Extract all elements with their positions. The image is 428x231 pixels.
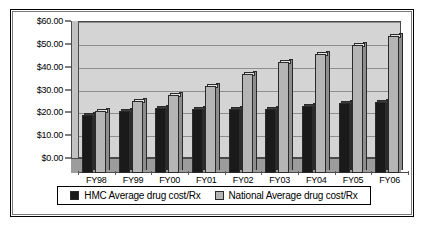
bar-front-face — [119, 111, 130, 173]
bar-front-face — [205, 86, 216, 173]
legend-item-national: National Average drug cost/Rx — [215, 190, 358, 201]
bar-national-fy05 — [352, 45, 363, 173]
legend-item-hmc: HMC Average drug cost/Rx — [70, 190, 200, 201]
gray-square-icon — [215, 191, 224, 200]
bar-national-fy02 — [242, 74, 253, 173]
bar-national-fy06 — [388, 36, 399, 173]
x-axis-tick-label: FY03 — [263, 175, 297, 185]
bar-front-face — [352, 45, 363, 173]
legend-label: National Average drug cost/Rx — [229, 190, 358, 201]
plot-area: $60.00$50.00$40.00$30.00$20.00$10.00$0.0… — [14, 13, 410, 173]
bar-hmc-fy99 — [119, 111, 130, 173]
bar-hmc-fy00 — [155, 108, 166, 173]
bar-group — [115, 21, 152, 173]
bar-group — [335, 21, 372, 173]
bar-national-fy01 — [205, 86, 216, 173]
y-axis-tick-label: $50.00 — [37, 39, 63, 49]
bar-front-face — [302, 106, 313, 173]
x-axis-tick-label: FY05 — [336, 175, 370, 185]
bar-side-face — [179, 92, 183, 170]
bar-group — [225, 21, 262, 173]
bar-front-face — [388, 36, 399, 173]
bar-front-face — [278, 62, 289, 173]
x-axis-tick-label: FY06 — [373, 175, 407, 185]
bar-series-container — [78, 21, 408, 173]
x-axis-tick-mark — [115, 171, 116, 175]
x-axis-tick-mark — [188, 171, 189, 175]
bar-side-face — [253, 71, 257, 170]
bar-hmc-fy03 — [265, 109, 276, 173]
bar-side-face — [216, 83, 220, 170]
bar-front-face — [339, 103, 350, 173]
bar-group — [151, 21, 188, 173]
bar-group — [261, 21, 298, 173]
y-axis-tick-label: $0.00 — [41, 153, 63, 163]
bar-front-face — [82, 115, 93, 173]
y-axis-tick-label: $10.00 — [37, 130, 63, 140]
bar-front-face — [265, 109, 276, 173]
x-axis-tick-label: FY02 — [226, 175, 260, 185]
bar-group — [78, 21, 115, 173]
x-axis-tick-mark — [78, 171, 79, 175]
bar-national-fy98 — [95, 111, 106, 173]
bar-front-face — [192, 109, 203, 173]
y-axis-tick-label: $40.00 — [37, 62, 63, 72]
bar-national-fy04 — [315, 54, 326, 173]
bar-hmc-fy01 — [192, 109, 203, 173]
bar-front-face — [315, 54, 326, 173]
bar-hmc-fy02 — [229, 109, 240, 173]
axis-depth-face — [71, 21, 78, 173]
y-axis-tick-label: $20.00 — [37, 107, 63, 117]
bar-side-face — [106, 108, 110, 170]
y-axis: $60.00$50.00$40.00$30.00$20.00$10.00$0.0… — [14, 13, 71, 165]
bar-front-face — [132, 101, 143, 173]
x-axis-tick-label: FY01 — [189, 175, 223, 185]
bar-group — [298, 21, 335, 173]
bar-side-face — [326, 51, 330, 170]
y-axis-tick-label: $30.00 — [37, 85, 63, 95]
x-axis-tick-mark — [335, 171, 336, 175]
black-square-icon — [70, 191, 79, 200]
x-axis-tick-mark — [261, 171, 262, 175]
bar-front-face — [242, 74, 253, 173]
bar-side-face — [399, 33, 403, 170]
bar-hmc-fy04 — [302, 106, 313, 173]
x-axis-tick-label: FY04 — [299, 175, 333, 185]
bar-national-fy99 — [132, 101, 143, 173]
bar-hmc-fy06 — [375, 102, 386, 173]
x-axis-tick-label: FY00 — [153, 175, 187, 185]
bar-front-face — [155, 108, 166, 173]
x-axis-tick-mark — [408, 171, 409, 175]
bar-national-fy03 — [278, 62, 289, 173]
x-axis-tick-label: FY99 — [116, 175, 150, 185]
bar-group — [188, 21, 225, 173]
bar-national-fy00 — [168, 95, 179, 173]
bar-front-face — [229, 109, 240, 173]
bar-side-face — [363, 42, 367, 170]
chart-legend: HMC Average drug cost/RxNational Average… — [57, 186, 371, 205]
x-axis-tick-label: FY98 — [79, 175, 113, 185]
x-axis-tick-mark — [371, 171, 372, 175]
bar-side-face — [143, 98, 147, 170]
bar-group — [371, 21, 408, 173]
y-axis-tick-label: $60.00 — [37, 16, 63, 26]
bar-front-face — [95, 111, 106, 173]
bar-front-face — [168, 95, 179, 173]
x-axis-tick-mark — [151, 171, 152, 175]
chart-screenshot: $60.00$50.00$40.00$30.00$20.00$10.00$0.0… — [0, 0, 428, 231]
x-axis-tick-mark — [225, 171, 226, 175]
bar-hmc-fy98 — [82, 115, 93, 173]
bar-front-face — [375, 102, 386, 173]
bar-hmc-fy05 — [339, 103, 350, 173]
bar-side-face — [289, 59, 293, 170]
legend-label: HMC Average drug cost/Rx — [84, 190, 200, 201]
x-axis-tick-mark — [298, 171, 299, 175]
